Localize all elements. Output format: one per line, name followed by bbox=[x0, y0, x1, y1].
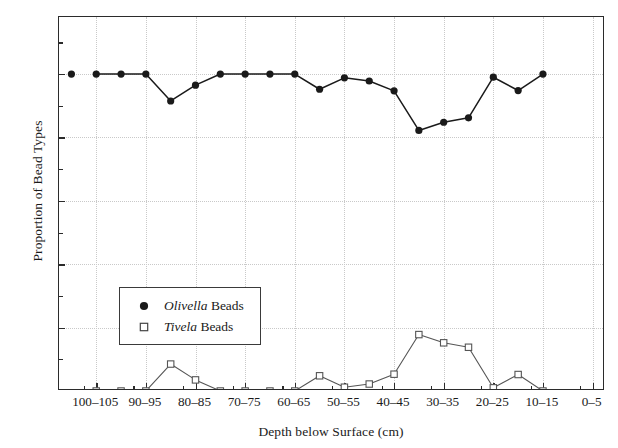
data-point-tivela bbox=[515, 371, 521, 377]
x-tick-label: 70–75 bbox=[228, 394, 261, 410]
data-point-tivela bbox=[118, 388, 124, 389]
data-point-olivella bbox=[266, 70, 273, 77]
data-point-olivella bbox=[465, 114, 472, 121]
x-axis-tick-labels: 100–10590–9580–8570–7560–6550–5540–4530–… bbox=[0, 394, 618, 416]
data-point-tivela bbox=[490, 385, 496, 389]
data-point-tivela bbox=[316, 373, 322, 379]
data-point-olivella bbox=[539, 70, 546, 77]
x-tick-label: 30–35 bbox=[426, 394, 459, 410]
data-point-tivela bbox=[465, 344, 471, 350]
data-point-tivela bbox=[292, 388, 298, 389]
x-tick-label: 40–45 bbox=[377, 394, 410, 410]
x-tick-label: 20–25 bbox=[476, 394, 509, 410]
data-point-tivela bbox=[540, 388, 546, 389]
legend-genus-olivella: Olivella bbox=[164, 298, 208, 313]
data-point-olivella bbox=[291, 70, 298, 77]
data-point-tivela bbox=[366, 381, 372, 387]
x-tick-label: 50–55 bbox=[327, 394, 360, 410]
data-point-tivela bbox=[192, 377, 198, 383]
data-point-olivella bbox=[316, 86, 323, 93]
data-point-tivela bbox=[440, 340, 446, 346]
plot-area: Olivella Beads Tivela Beads bbox=[58, 16, 604, 390]
data-point-olivella bbox=[217, 70, 224, 77]
data-point-olivella bbox=[117, 70, 124, 77]
legend-suffix-tivela: Beads bbox=[197, 319, 233, 334]
x-tick-label: 100–105 bbox=[72, 394, 118, 410]
legend-entry-olivella: Olivella Beads bbox=[130, 295, 244, 316]
y-axis-title: Proportion of Bead Types bbox=[30, 61, 46, 321]
data-point-olivella bbox=[440, 119, 447, 126]
data-point-olivella bbox=[68, 70, 75, 77]
data-point-tivela bbox=[267, 388, 273, 389]
legend-label-olivella: Olivella Beads bbox=[158, 298, 244, 314]
x-tick-label: 60–65 bbox=[277, 394, 310, 410]
data-point-tivela bbox=[242, 388, 248, 389]
x-tick-label: 90–95 bbox=[128, 394, 161, 410]
data-point-tivela bbox=[93, 388, 99, 389]
data-point-olivella bbox=[93, 70, 100, 77]
data-point-olivella bbox=[142, 70, 149, 77]
data-point-tivela bbox=[217, 388, 223, 389]
x-tick-label: 10–15 bbox=[525, 394, 558, 410]
legend-label-tivela: Tivela Beads bbox=[158, 319, 233, 335]
legend: Olivella Beads Tivela Beads bbox=[119, 287, 261, 345]
legend-genus-tivela: Tivela bbox=[164, 319, 197, 334]
chart-figure: Proportion of Bead Types Depth below Sur… bbox=[0, 0, 618, 448]
data-point-olivella bbox=[415, 127, 422, 134]
data-point-tivela bbox=[143, 388, 149, 389]
data-point-olivella bbox=[192, 82, 199, 89]
data-point-olivella bbox=[242, 70, 249, 77]
series-line bbox=[96, 74, 543, 130]
data-point-tivela bbox=[391, 371, 397, 377]
data-point-tivela bbox=[167, 361, 173, 367]
x-axis-title: Depth below Surface (cm) bbox=[58, 424, 604, 440]
data-point-olivella bbox=[490, 74, 497, 81]
open-square-icon bbox=[130, 320, 158, 334]
data-point-tivela bbox=[416, 331, 422, 337]
legend-suffix-olivella: Beads bbox=[208, 298, 244, 313]
data-point-olivella bbox=[366, 77, 373, 84]
x-tick-label: 80–85 bbox=[178, 394, 211, 410]
data-point-tivela bbox=[341, 384, 347, 389]
filled-circle-icon bbox=[130, 299, 158, 313]
legend-entry-tivela: Tivela Beads bbox=[130, 316, 244, 337]
x-tick-label: 0–5 bbox=[582, 394, 602, 410]
data-point-olivella bbox=[167, 97, 174, 104]
data-point-olivella bbox=[341, 74, 348, 81]
data-point-olivella bbox=[390, 87, 397, 94]
data-point-olivella bbox=[515, 87, 522, 94]
